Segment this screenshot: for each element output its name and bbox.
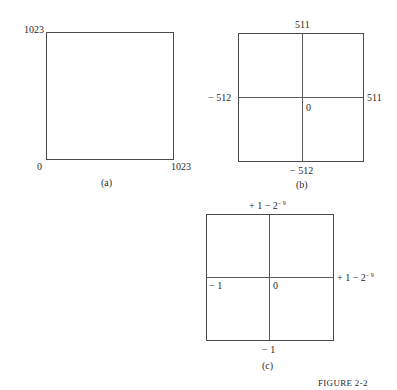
panel-b-caption: (b) — [296, 180, 308, 190]
panel-c-label-left: − 1 — [209, 281, 222, 291]
panel-a-label-top-left: 1023 — [24, 25, 44, 35]
panel-c-label-top: + 1 − 2− 9 — [249, 201, 286, 211]
panel-a-caption: (a) — [101, 178, 112, 188]
panel-b-label-bottom: − 512 — [290, 166, 313, 176]
panel-c-label-right: + 1 − 2− 9 — [337, 273, 374, 283]
panel-a-label-bottom-right: 1023 — [171, 162, 191, 172]
panel-b-label-top: 511 — [295, 20, 310, 30]
panel-b-label-right: 511 — [367, 93, 382, 103]
panel-b-label-left: − 512 — [208, 93, 231, 103]
panel-b-label-center: 0 — [306, 103, 311, 113]
panel-c-label-center: 0 — [273, 281, 278, 291]
panel-a-square — [46, 32, 174, 160]
panel-a-label-bottom-left: 0 — [37, 162, 42, 172]
panel-c-label-bottom: − 1 — [262, 345, 275, 355]
panel-b-horizontal-axis — [238, 97, 364, 98]
panel-c-caption: (c) — [262, 361, 273, 371]
panel-c-horizontal-axis — [206, 277, 334, 278]
figure-label: FIGURE 2-2 — [318, 378, 368, 388]
